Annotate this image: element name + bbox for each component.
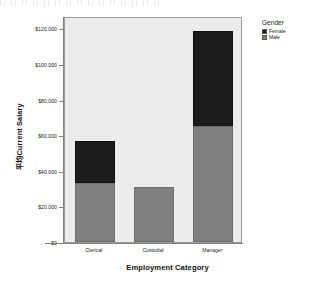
bar-segment-clerical-female — [75, 141, 115, 183]
legend-entry-female: Female — [262, 29, 286, 34]
y-axis-title: 平均Current Salary — [13, 82, 24, 192]
x-axis-tick-label-clerical: Clerical — [85, 247, 102, 253]
y-axis-tick-label: $60,000 — [38, 133, 57, 139]
y-axis-tick-label: $20,000 — [38, 204, 57, 210]
legend-title: Gender — [262, 19, 286, 26]
x-axis-tick-label-custodial: Custodial — [142, 247, 163, 253]
plot-area — [64, 17, 242, 243]
y-axis-tick-label: $40,000 — [38, 169, 57, 175]
bar-segment-clerical-male — [75, 183, 115, 242]
y-axis-tick-label: $120,000 — [35, 26, 57, 32]
y-axis: $0$20,000$40,000$60,000$80,000$100,000$1… — [0, 0, 64, 289]
bar-clerical — [75, 141, 115, 242]
x-axis-title-text: Employment Category — [126, 263, 209, 272]
legend-entry-male: Male — [262, 35, 286, 40]
legend: Gender FemaleMale — [262, 19, 286, 42]
bar-segment-manager-male — [193, 126, 233, 242]
legend-entries: FemaleMale — [262, 29, 286, 41]
salary-by-employment-category-chart: $0$20,000$40,000$60,000$80,000$100,000$1… — [0, 0, 309, 289]
bar-segment-custodial-male — [134, 187, 174, 242]
x-axis-line — [45, 243, 243, 244]
legend-entry-label: Male — [269, 35, 280, 40]
x-axis-tick-label-manager: Manager — [202, 247, 222, 253]
bar-custodial — [134, 187, 174, 242]
bar-manager — [193, 31, 233, 242]
legend-entry-label: Female — [269, 29, 286, 34]
legend-swatch-icon — [262, 35, 267, 40]
bar-segment-manager-female — [193, 31, 233, 125]
y-axis-tick-label: $80,000 — [38, 98, 57, 104]
legend-swatch-icon — [262, 29, 267, 34]
y-axis-tick-label: $100,000 — [35, 62, 57, 68]
x-axis-title: Employment Category — [0, 263, 309, 272]
